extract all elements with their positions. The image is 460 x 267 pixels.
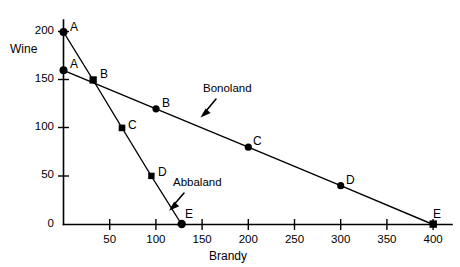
x-tick-label-150: 150 bbox=[182, 234, 222, 246]
x-tick-label-200: 200 bbox=[228, 234, 268, 246]
y-axis-title: Wine bbox=[10, 43, 37, 55]
bonoland-curve-label: Bonoland bbox=[203, 83, 252, 95]
bonoland-point-label-a: A bbox=[70, 58, 78, 70]
x-tick-label-50: 50 bbox=[90, 234, 130, 246]
bonoland-point-label-b: B bbox=[162, 97, 170, 109]
x-tick-label-100: 100 bbox=[136, 234, 176, 246]
bonoland-point-label-c: C bbox=[253, 135, 262, 147]
abbaland-curve-label: Abbaland bbox=[173, 177, 222, 189]
y-tick-label-0: 0 bbox=[18, 218, 54, 230]
x-axis-title: Brandy bbox=[209, 250, 247, 262]
x-tick-label-300: 300 bbox=[321, 234, 361, 246]
y-tick-label-100: 100 bbox=[18, 121, 54, 133]
chart-plot-area bbox=[0, 0, 460, 267]
y-tick-label-50: 50 bbox=[18, 169, 54, 181]
abbaland-point-label-c: C bbox=[128, 119, 137, 131]
abbaland-point-label-d: D bbox=[158, 166, 167, 178]
ppf-chart-figure: 200 150 100 50 0 50 100 150 200 250 300 … bbox=[0, 0, 460, 267]
y-tick-label-200: 200 bbox=[18, 25, 54, 37]
abbaland-point-label-a: A bbox=[70, 21, 78, 33]
bonoland-annotation-arrow bbox=[201, 99, 217, 118]
abbaland-annotation-arrow bbox=[169, 193, 184, 211]
bonoland-point-label-d: D bbox=[346, 174, 355, 186]
abbaland-point-label-e: E bbox=[185, 208, 193, 220]
x-tick-label-250: 250 bbox=[275, 234, 315, 246]
abbaland-point-label-b: B bbox=[100, 68, 108, 80]
y-tick-label-150: 150 bbox=[18, 73, 54, 85]
abbaland-markers bbox=[60, 28, 186, 228]
x-tick-label-400: 400 bbox=[413, 234, 453, 246]
x-tick-label-350: 350 bbox=[367, 234, 407, 246]
bonoland-point-label-e: E bbox=[433, 208, 441, 220]
